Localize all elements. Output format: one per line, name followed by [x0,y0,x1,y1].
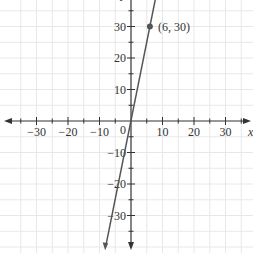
x-axis-left-arrow-icon [4,118,12,124]
x-axis-label: x [247,125,253,139]
y-tick-label: 10 [114,83,126,97]
y-tick-label: 30 [114,20,126,34]
graph-svg: −30−20−10102030302010−10−20−300xy (6, 30… [0,0,253,253]
y-axis-down-arrow-icon [128,242,134,250]
y-tick-label: 20 [114,51,126,65]
x-tick-label: 10 [157,125,169,139]
y-tick-label: −30 [107,209,126,223]
coordinate-plane: −30−20−10102030302010−10−20−300xy (6, 30… [0,0,253,253]
x-tick-label: −30 [27,125,46,139]
x-tick-label: 20 [188,125,200,139]
line-arrow-icon [103,242,109,250]
y-axis-label: y [120,0,127,1]
x-tick-label: −20 [59,125,78,139]
x-tick-label: −10 [90,125,109,139]
point-label: (6, 30) [158,20,190,34]
x-tick-label: 30 [220,125,232,139]
x-axis-right-arrow-icon [243,118,251,124]
origin-label: 0 [120,123,126,137]
point-marker [147,24,153,30]
tick-labels: −30−20−10102030302010−10−20−300xy [27,0,253,223]
